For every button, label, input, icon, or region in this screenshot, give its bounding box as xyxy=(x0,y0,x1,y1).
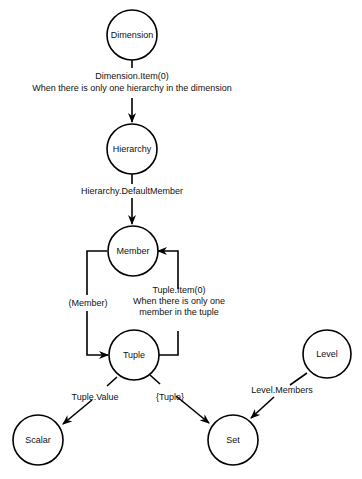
node-label: Set xyxy=(226,435,240,445)
node-scalar: Scalar xyxy=(13,415,63,465)
node-hierarchy: Hierarchy xyxy=(107,124,157,174)
node-tuple: Tuple xyxy=(109,330,159,380)
edge-label: When there is only one xyxy=(133,296,225,306)
node-label: Member xyxy=(116,246,149,256)
node-level: Level xyxy=(303,330,351,378)
node-label: Tuple xyxy=(123,350,145,360)
node-label: Scalar xyxy=(25,435,51,445)
node-label: Level xyxy=(316,349,338,359)
edge-label: Level.Members xyxy=(251,385,313,395)
node-set: Set xyxy=(208,415,258,465)
node-dimension: Dimension xyxy=(107,10,157,60)
edge-label: Tuple.Item(0) xyxy=(152,285,205,295)
edge-label: Hierarchy.DefaultMember xyxy=(81,186,183,196)
edge-label: When there is only one hierarchy in the … xyxy=(32,83,232,93)
edge-label: (Member) xyxy=(68,298,107,308)
edge-label: Dimension.Item(0) xyxy=(95,71,169,81)
edge-label: Tuple.Value xyxy=(71,392,118,402)
edge-level-to-set xyxy=(251,373,307,418)
edge-label: {Tuple} xyxy=(156,392,184,402)
node-member: Member xyxy=(108,226,158,276)
edge-label: member in the tuple xyxy=(139,307,219,317)
node-label: Hierarchy xyxy=(113,144,152,154)
object-model-diagram: Dimension Hierarchy Member Tuple Level S… xyxy=(0,0,362,479)
node-label: Dimension xyxy=(111,30,154,40)
